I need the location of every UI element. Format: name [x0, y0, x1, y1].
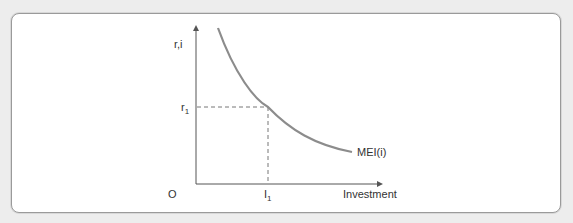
curve-label: MEI(i)	[357, 146, 386, 158]
r1-label: r1	[181, 101, 190, 116]
x-axis-label: Investment	[343, 188, 397, 200]
mei-curve	[218, 28, 352, 152]
origin-label: O	[168, 188, 177, 200]
mei-diagram: r,i r1 O I1 Investment MEI(i)	[0, 0, 573, 223]
i1-label: I1	[264, 188, 272, 203]
y-axis-label: r,i	[174, 38, 183, 50]
